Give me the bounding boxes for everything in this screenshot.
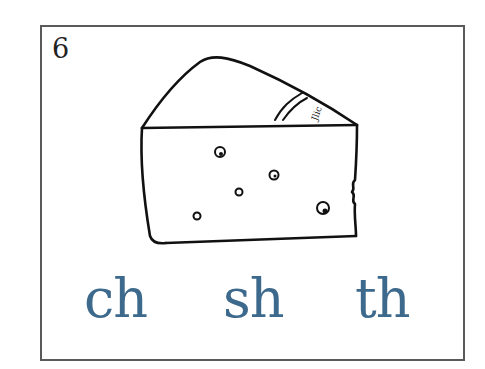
- cheese-wedge-icon: Jlic: [125, 48, 365, 248]
- choice-th[interactable]: th: [355, 272, 409, 326]
- choice-sh[interactable]: sh: [223, 272, 284, 326]
- card-number: 6: [52, 35, 69, 62]
- svg-text:Jlic: Jlic: [309, 105, 324, 123]
- choice-ch[interactable]: ch: [84, 272, 147, 326]
